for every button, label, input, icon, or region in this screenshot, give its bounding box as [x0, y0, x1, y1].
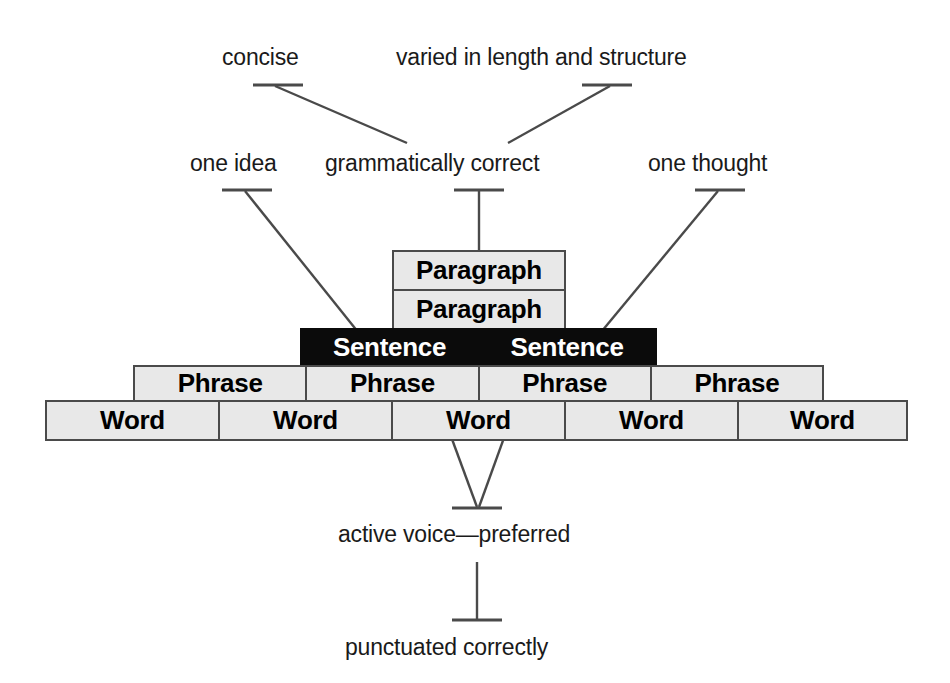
pyramid-cell-word-4: Word [564, 400, 739, 441]
annotation-varied-in-length-and-structure: varied in length and structure [396, 44, 687, 71]
pyramid-label-word-5: Word [790, 405, 855, 436]
annotation-concise: concise [222, 44, 299, 71]
pyramid-label-sentence-2: Sentence [510, 332, 623, 363]
concise-leader [275, 86, 407, 143]
annotation-one-idea: one idea [190, 150, 277, 177]
pyramid-label-phrase-3: Phrase [522, 368, 607, 399]
annotation-one-thought: one thought [648, 150, 767, 177]
pyramid-label-phrase-4: Phrase [694, 368, 779, 399]
varied-leader [508, 86, 610, 143]
one-thought-leader [602, 191, 718, 331]
pyramid-block-paragraph-second: Paragraph [392, 289, 566, 330]
pyramid-label-word-1: Word [100, 405, 165, 436]
pyramid-cell-phrase-3: Phrase [478, 365, 652, 402]
pyramid-cell-sentence-1: Sentence [300, 328, 479, 367]
pyramid-label-paragraph-2: Paragraph [416, 294, 542, 325]
annotation-punctuated-correctly: punctuated correctly [345, 634, 548, 661]
pyramid-cell-word-1: Word [45, 400, 220, 441]
pyramid-cell-word-3: Word [391, 400, 566, 441]
diagram-canvas: concise varied in length and structure o… [0, 0, 950, 683]
pyramid-label-word-4: Word [619, 405, 684, 436]
one-idea-leader [245, 191, 358, 332]
annotation-active-voice-preferred: active voice—preferred [338, 521, 570, 548]
pyramid-cell-phrase-4: Phrase [650, 365, 824, 402]
pyramid-label-phrase-1: Phrase [178, 368, 263, 399]
pyramid-cell-word-2: Word [218, 400, 393, 441]
pyramid-row-phrase: Phrase Phrase Phrase Phrase [133, 365, 824, 402]
pyramid-cell-word-5: Word [737, 400, 908, 441]
pyramid-cell-phrase-2: Phrase [305, 365, 479, 402]
pyramid-row-word: Word Word Word Word Word [45, 400, 908, 441]
pyramid-label-word-3: Word [446, 405, 511, 436]
pyramid-label-word-2: Word [273, 405, 338, 436]
pyramid-cell-sentence-2: Sentence [477, 328, 657, 367]
pyramid-row-sentence: Sentence Sentence [300, 328, 657, 367]
pyramid-label-phrase-2: Phrase [350, 368, 435, 399]
annotation-grammatically-correct: grammatically correct [325, 150, 539, 177]
pyramid-label-sentence-1: Sentence [333, 332, 446, 363]
pyramid-cell-phrase-1: Phrase [133, 365, 307, 402]
pyramid-label-paragraph: Paragraph [416, 255, 542, 286]
pyramid-block-paragraph-top: Paragraph [392, 250, 566, 291]
